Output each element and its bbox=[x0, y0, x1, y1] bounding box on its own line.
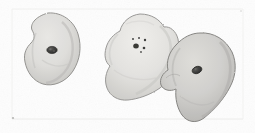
sketch-canvas bbox=[0, 0, 255, 133]
cell-sketch-figure: Pencil sketch of three amoeboid cells bbox=[0, 0, 255, 133]
paper-wash-overlay bbox=[0, 0, 255, 133]
